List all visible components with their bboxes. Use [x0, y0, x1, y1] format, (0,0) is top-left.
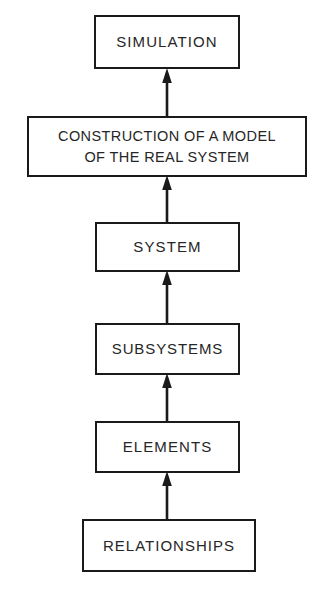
node-simulation-label: SIMULATION — [96, 31, 238, 52]
arrow-subsystems-to-system — [158, 270, 176, 325]
node-simulation: SIMULATION — [94, 15, 240, 69]
node-subsystems-label: SUBSYSTEMS — [97, 338, 238, 359]
arrow-system-to-construction — [158, 175, 176, 224]
node-subsystems: SUBSYSTEMS — [95, 323, 240, 375]
node-elements-label: ELEMENTS — [97, 436, 238, 457]
arrow-relationships-to-elements — [158, 471, 176, 521]
node-system-label: SYSTEM — [97, 236, 238, 257]
diagram-canvas: SIMULATION CONSTRUCTION OF A MODEL OF TH… — [0, 0, 325, 591]
node-construction-of-a-model: CONSTRUCTION OF A MODEL OF THE REAL SYST… — [27, 116, 307, 177]
node-construction-of-a-model-label: CONSTRUCTION OF A MODEL OF THE REAL SYST… — [29, 126, 305, 167]
node-elements: ELEMENTS — [95, 421, 240, 473]
node-relationships-label: RELATIONSHIPS — [84, 535, 254, 556]
arrow-construction-to-simulation — [158, 68, 176, 118]
arrow-elements-to-subsystems — [158, 373, 176, 423]
node-system: SYSTEM — [95, 222, 240, 272]
node-relationships: RELATIONSHIPS — [82, 519, 256, 572]
